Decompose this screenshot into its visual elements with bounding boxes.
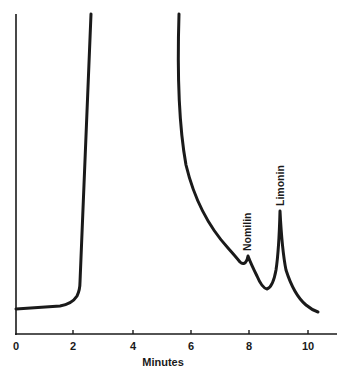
x-tick-labels: 0 2 4 6 8 10 <box>13 340 314 352</box>
chromatogram-trace-rise <box>16 14 91 309</box>
chromatogram-trace-decay <box>178 14 318 312</box>
x-axis-title: Minutes <box>142 356 184 368</box>
tick-label-8: 8 <box>246 340 252 352</box>
tick-label-10: 10 <box>302 340 314 352</box>
chromatogram-chart: 0 2 4 6 8 10 Minutes Nomilin Limonin <box>0 0 348 373</box>
tick-label-0: 0 <box>13 340 19 352</box>
tick-label-4: 4 <box>130 340 137 352</box>
tick-label-2: 2 <box>70 340 76 352</box>
peak-label-limonin: Limonin <box>274 165 286 206</box>
peak-label-nomilin: Nomilin <box>241 213 253 252</box>
tick-label-6: 6 <box>188 340 194 352</box>
